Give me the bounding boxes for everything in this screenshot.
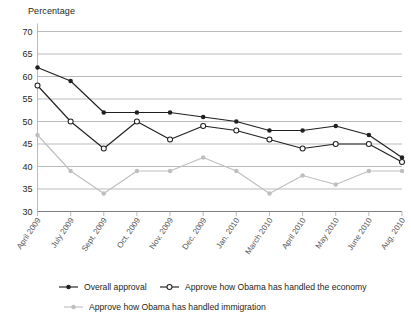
- data-point: [267, 128, 272, 133]
- data-point: [267, 191, 272, 196]
- y-tick-label: 35: [22, 184, 32, 194]
- x-tick-label: Sept. 2009: [80, 216, 109, 254]
- x-tick-label: Jan. 2010: [214, 216, 241, 251]
- data-series-group: [35, 65, 405, 196]
- legend-label: Approve how Obama has handled the econom…: [185, 282, 367, 292]
- data-point: [400, 160, 405, 165]
- data-point: [234, 128, 239, 133]
- data-point: [201, 124, 206, 129]
- legend-marker: [167, 285, 172, 290]
- legend-item: Approve how Obama has handled the econom…: [160, 282, 367, 292]
- data-point: [102, 110, 107, 115]
- data-point: [68, 119, 73, 124]
- data-point: [333, 142, 338, 147]
- data-point: [367, 169, 372, 174]
- plot-area: 303540455055606570 April 2009July 2009Se…: [0, 0, 411, 324]
- data-point: [35, 133, 40, 138]
- data-point: [135, 110, 140, 115]
- data-point: [400, 169, 405, 174]
- data-point: [135, 169, 140, 174]
- x-tick-label: July 2009: [49, 216, 76, 250]
- data-point: [168, 110, 173, 115]
- line-chart-svg: 303540455055606570 April 2009July 2009Se…: [0, 0, 411, 324]
- data-point: [267, 137, 272, 142]
- series-2: [35, 83, 405, 165]
- y-tick-label: 30: [22, 207, 32, 217]
- series-line: [38, 86, 403, 163]
- legend-label: Overall approval: [84, 282, 147, 292]
- legend-label: Approve how Obama has handled immigratio…: [89, 302, 266, 312]
- data-point: [168, 169, 173, 174]
- legend-item: Approve how Obama has handled immigratio…: [64, 302, 266, 312]
- x-tick-label: May 2010: [314, 216, 341, 251]
- series-1: [35, 65, 404, 160]
- legend-marker: [66, 285, 71, 290]
- y-tick-label: 70: [22, 27, 32, 37]
- data-point: [300, 173, 305, 178]
- chart-legend: Overall approvalApprove how Obama has ha…: [59, 282, 367, 312]
- x-tick-label: Dec. 2009: [180, 216, 208, 252]
- data-point: [35, 65, 40, 70]
- y-tick-labels-group: 303540455055606570: [22, 27, 32, 217]
- data-point: [168, 137, 173, 142]
- x-tick-label: Oct. 2009: [115, 216, 142, 250]
- legend-item: Overall approval: [59, 282, 147, 292]
- legend-marker: [71, 305, 76, 310]
- y-tick-label: 60: [22, 72, 32, 82]
- data-point: [102, 191, 107, 196]
- x-tick-label: April 2009: [15, 216, 43, 251]
- x-tick-label: March 2010: [244, 216, 275, 257]
- data-point: [201, 155, 206, 160]
- data-point: [300, 128, 305, 133]
- y-tick-label: 65: [22, 49, 32, 59]
- data-point: [234, 119, 239, 124]
- data-point: [234, 169, 239, 174]
- series-3: [35, 133, 404, 196]
- data-point: [35, 83, 40, 88]
- data-point: [101, 146, 106, 151]
- data-point: [367, 133, 372, 138]
- x-tick-labels-group: April 2009July 2009Sept. 2009Oct. 2009No…: [15, 216, 407, 257]
- x-tick-label: Nov. 2009: [148, 216, 176, 251]
- data-point: [68, 79, 73, 84]
- x-tick-label: June 2010: [346, 216, 375, 252]
- y-tick-label: 55: [22, 94, 32, 104]
- y-tick-label: 50: [22, 117, 32, 127]
- x-tick-label: April 2010: [280, 216, 308, 251]
- data-point: [333, 124, 338, 129]
- data-point: [68, 169, 73, 174]
- data-point: [333, 182, 338, 187]
- data-point: [134, 119, 139, 124]
- y-tick-label: 45: [22, 139, 32, 149]
- data-point: [300, 146, 305, 151]
- gridlines-group: [38, 32, 403, 212]
- data-point: [366, 142, 371, 147]
- y-tick-label: 40: [22, 162, 32, 172]
- x-tick-label: Aug. 2010: [379, 216, 407, 252]
- data-point: [201, 115, 206, 120]
- x-tick-marks-group: [38, 212, 403, 217]
- chart-container: Percentage 303540455055606570 April 2009…: [0, 0, 411, 324]
